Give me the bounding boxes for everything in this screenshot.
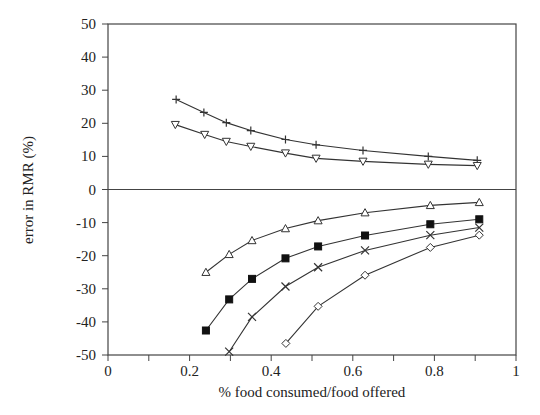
y-tick-label: -40 — [76, 314, 96, 330]
plus-marker — [200, 108, 208, 116]
x-tick-label: 0.4 — [262, 363, 281, 379]
y-tick-label: -20 — [76, 248, 96, 264]
plus-marker — [172, 95, 180, 103]
x-tick-label: 0.8 — [425, 363, 444, 379]
y-tick-label: 20 — [81, 115, 96, 131]
y-tick-label: 0 — [89, 182, 97, 198]
square-marker — [476, 216, 483, 223]
y-tick-label: 10 — [81, 148, 96, 164]
plus-marker — [424, 152, 432, 160]
y-tick-label: -10 — [76, 215, 96, 231]
x-tick-label: 0.6 — [343, 363, 362, 379]
plus-marker — [312, 141, 320, 149]
series-line — [286, 235, 479, 343]
plot-axes: 50403020100-10-20-30-40-5000.20.40.60.81 — [76, 16, 520, 379]
cross-marker — [361, 246, 369, 254]
series-line — [206, 219, 479, 330]
plus-marker — [359, 146, 367, 154]
y-tick-label: 30 — [81, 82, 96, 98]
y-axis-title: error in RMR (%) — [20, 136, 37, 244]
y-tick-label: 50 — [81, 16, 96, 32]
diamond-marker — [475, 231, 483, 239]
square-marker — [226, 296, 233, 303]
x-tick-label: 1 — [512, 363, 520, 379]
diamond-marker — [426, 243, 434, 251]
plus-marker — [281, 136, 289, 144]
triangle-up-marker — [202, 268, 210, 275]
y-tick-label: -30 — [76, 281, 96, 297]
series-plus — [172, 95, 481, 164]
square-marker — [362, 232, 369, 239]
y-tick-label: -50 — [76, 347, 96, 363]
triangle-up-marker — [475, 198, 483, 205]
y-tick-label: 40 — [81, 49, 96, 65]
x-tick-label: 0 — [104, 363, 112, 379]
data-series — [171, 95, 483, 355]
series-line — [175, 125, 477, 166]
square-marker — [315, 243, 322, 250]
cross-marker — [314, 263, 322, 271]
series-triangle-up — [202, 198, 483, 275]
square-marker — [282, 255, 289, 262]
series-line — [206, 202, 479, 272]
x-tick-label: 0.2 — [180, 363, 199, 379]
square-marker — [202, 327, 209, 334]
diamond-marker — [361, 271, 369, 279]
series-line — [229, 228, 479, 352]
plus-marker — [222, 119, 230, 127]
cross-marker — [281, 282, 289, 290]
series-line — [176, 99, 477, 160]
plus-marker — [247, 127, 255, 135]
square-marker — [427, 221, 434, 228]
chart: 50403020100-10-20-30-40-5000.20.40.60.81… — [0, 0, 540, 415]
square-marker — [249, 275, 256, 282]
triangle-up-marker — [248, 236, 256, 243]
triangle-up-marker — [225, 250, 233, 257]
x-axis-title: % food consumed/food offered — [219, 384, 406, 400]
cross-marker — [248, 313, 256, 321]
